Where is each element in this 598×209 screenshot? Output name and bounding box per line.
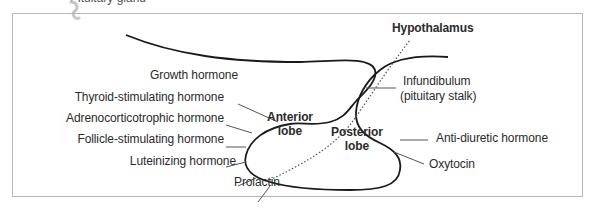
label-follicle-stimulating-hormone: Follicle-stimulating hormone — [20, 132, 224, 146]
leader-line-thyroid — [226, 125, 252, 133]
infundibulum-line-2: (pituitary stalk) — [400, 89, 476, 104]
posterior-lobe-label: Posterior lobe — [327, 125, 387, 153]
hypothalamus-label: Hypothalamus — [392, 21, 473, 35]
label-thyroid-stimulating-hormone: Thyroid-stimulating hormone — [40, 90, 224, 104]
label-adrenocorticotrophic-hormone: Adrenocorticotrophic hormone — [20, 111, 224, 125]
label-luteinizing-hormone: Luteinizing hormone — [60, 154, 236, 168]
posterior-lobe-line-1: Posterior — [327, 125, 387, 139]
label-growth-hormone: Growth hormone — [150, 68, 236, 82]
label-oxytocin: Oxytocin — [429, 157, 475, 171]
anterior-lobe-line-2: lobe — [260, 124, 320, 138]
anterior-lobe-line-1: Anterior — [260, 110, 320, 124]
anterior-lobe-label: Anterior lobe — [260, 110, 320, 138]
infundibulum-line-1: Infundibulum — [400, 74, 476, 89]
label-anti-diuretic-hormone: Anti-diuretic hormone — [436, 131, 548, 145]
label-prolactin: Prolactin — [234, 175, 280, 189]
posterior-lobe-line-2: lobe — [327, 139, 387, 153]
infundibulum-label: Infundibulum (pituitary stalk) — [400, 74, 476, 104]
pituitary-diagram — [0, 0, 598, 209]
